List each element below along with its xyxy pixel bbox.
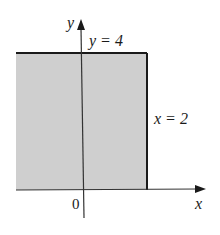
y-axis-arrow-icon	[77, 19, 85, 30]
top-boundary-label: y = 4	[87, 32, 123, 50]
right-boundary-label: x = 2	[153, 110, 188, 127]
y-axis-label: y	[65, 14, 75, 32]
x-axis-label: x	[194, 195, 202, 212]
origin-label: 0	[72, 196, 80, 212]
region-graph: y y = 4 x = 2 0 x	[0, 0, 220, 235]
x-axis-arrow-icon	[195, 185, 206, 193]
